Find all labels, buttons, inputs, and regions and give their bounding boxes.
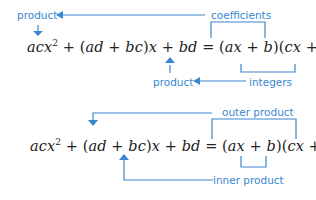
label-product-top: product <box>17 10 57 21</box>
outer-product-line <box>93 113 212 120</box>
term-b: b <box>264 39 273 55</box>
term-ax: ax <box>225 39 242 55</box>
term-ad: ad <box>89 138 107 154</box>
label-inner-product: inner product <box>213 175 284 186</box>
op: )( <box>276 138 288 154</box>
integers-bracket <box>241 64 295 72</box>
term-acx: acx <box>27 39 52 55</box>
factoring-diagram: product coefficients product integers ac… <box>0 0 316 200</box>
op: + <box>157 39 179 55</box>
term-bd: bd <box>182 138 201 154</box>
term-b: b <box>267 138 276 154</box>
term-cx: cx <box>284 39 301 55</box>
arrow-up-icon <box>119 154 129 160</box>
op: + <box>160 138 182 154</box>
op: + <box>245 138 267 154</box>
arrow-down-icon <box>88 120 98 126</box>
term-ad: ad <box>86 39 104 55</box>
term-acx: acx <box>30 138 55 154</box>
arrow-left-icon <box>193 77 200 85</box>
op: + <box>304 138 316 154</box>
term-x: x <box>149 39 157 55</box>
arrow-up-icon <box>165 57 175 63</box>
label-coefficients: coefficients <box>211 10 271 21</box>
term-cx: cx <box>287 138 304 154</box>
op: + <box>104 39 126 55</box>
op: + <box>301 39 316 55</box>
outer-product-bracket <box>212 119 296 139</box>
op: = ( <box>200 138 227 154</box>
connector-lines <box>0 0 316 200</box>
term-bd: bd <box>179 39 198 55</box>
equation-2: acx2 + (ad + bc)x + bd = (ax + b)(cx + d… <box>30 139 316 154</box>
op: = ( <box>197 39 224 55</box>
inner-product-bracket <box>241 156 266 167</box>
op: + <box>107 138 129 154</box>
op: + <box>242 39 264 55</box>
term-ax: ax <box>228 138 245 154</box>
op: + ( <box>58 39 85 55</box>
coefficients-bracket <box>211 22 265 38</box>
label-product-bottom: product <box>153 77 193 88</box>
term-bc: bc <box>128 138 146 154</box>
term-x: x <box>152 138 160 154</box>
label-integers: integers <box>249 77 292 88</box>
label-outer-product: outer product <box>222 107 294 118</box>
op: + ( <box>61 138 88 154</box>
arrow-down-icon <box>33 31 43 36</box>
inner-product-line <box>124 160 213 180</box>
op: )( <box>273 39 285 55</box>
term-bc: bc <box>125 39 143 55</box>
equation-1: acx2 + (ad + bc)x + bd = (ax + b)(cx + d… <box>27 40 316 55</box>
